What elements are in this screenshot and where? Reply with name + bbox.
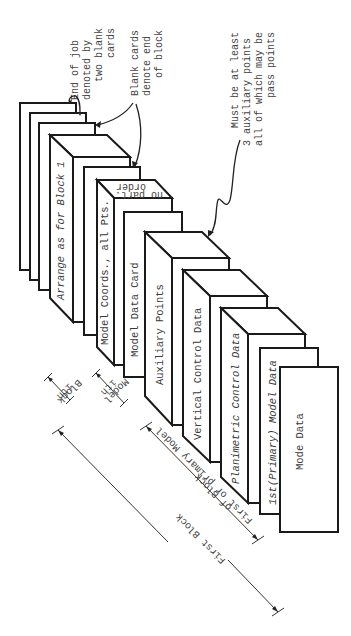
svg-text:of block: of block xyxy=(154,30,165,78)
svg-text:Vertical Control Data: Vertical Control Data xyxy=(192,308,204,440)
svg-text:two blank: two blank xyxy=(94,28,105,82)
svg-text:Model Data Card: Model Data Card xyxy=(129,262,141,357)
arrange-label: Arrange as for Block 1 xyxy=(55,161,67,301)
mode-data-card: Mode Data xyxy=(280,367,338,532)
svg-text:all of which may be: all of which may be xyxy=(254,32,265,146)
svg-text:cards: cards xyxy=(106,28,117,58)
svg-text:denoted by: denoted by xyxy=(82,40,93,100)
svg-text:Mode Data: Mode Data xyxy=(294,413,306,470)
svg-text:Planimetric Control Data: Planimetric Control Data xyxy=(230,333,242,484)
svg-text:pass points: pass points xyxy=(266,32,277,98)
svg-text:denote end: denote end xyxy=(142,36,153,96)
svg-text:Blank cards: Blank cards xyxy=(130,30,141,96)
svg-text:Must be at least: Must be at least xyxy=(230,32,241,128)
svg-text:First Block: First Block xyxy=(174,511,228,565)
ith-block-dimension: ith Block xyxy=(44,373,84,406)
arrow-icon xyxy=(97,103,133,125)
no-part-order-label-2: order xyxy=(116,181,146,192)
svg-text:1st(Primary) Model Data: 1st(Primary) Model Data xyxy=(267,360,279,505)
auxiliary-note-annotation: Must be at least 3 auxiliary points all … xyxy=(208,32,277,237)
arrow-icon xyxy=(210,140,240,235)
svg-text:End of job: End of job xyxy=(70,40,81,100)
svg-text:Auxiliary Points: Auxiliary Points xyxy=(154,284,166,385)
svg-text:3 auxiliary points: 3 auxiliary points xyxy=(242,38,253,146)
card-deck-diagram: Arrange as for Block 1 no part. order Mo… xyxy=(0,0,351,636)
model-coords-label: Model Coords., all Pts. xyxy=(99,200,111,345)
arrow-icon xyxy=(135,104,141,166)
